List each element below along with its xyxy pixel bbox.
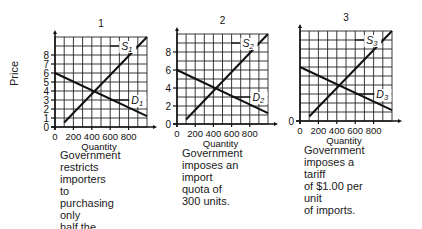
caption-line: imposes a tariff xyxy=(304,156,365,180)
caption-line: of imports. xyxy=(304,204,365,216)
x-tick-label: 0 xyxy=(297,125,302,136)
caption-line: of $1.00 per unit xyxy=(304,180,365,204)
panel-caption: Governmentimposes a tariffof $1.00 per u… xyxy=(304,144,365,216)
caption-line: Government xyxy=(304,144,365,156)
x-tick-label: 200 xyxy=(310,125,326,136)
panel-number: 3 xyxy=(343,12,349,23)
x-tick-label: 800 xyxy=(366,125,382,136)
y-tick-label: 0 xyxy=(288,116,294,127)
